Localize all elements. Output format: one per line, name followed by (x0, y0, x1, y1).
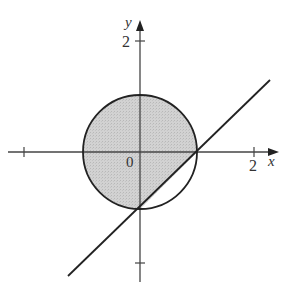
coordinate-diagram: y 2 0 2 x (0, 0, 296, 291)
x-tick-label: 2 (249, 157, 257, 174)
x-axis-label: x (267, 153, 275, 169)
y-tick-label: 2 (122, 33, 130, 50)
y-axis-label: y (123, 14, 132, 30)
y-axis-arrow-icon (136, 20, 144, 31)
origin-label: 0 (126, 154, 134, 170)
